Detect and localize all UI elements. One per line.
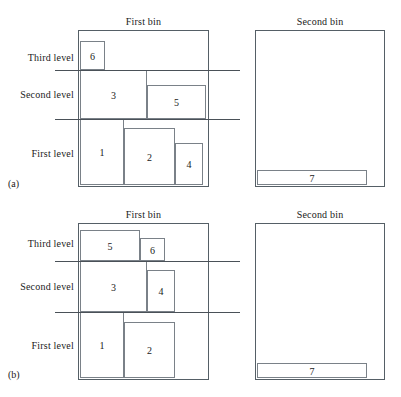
- item-label-a-first-bin-5: 5: [148, 97, 205, 108]
- bin-title-a-first-bin: First bin: [78, 16, 209, 27]
- item-label-a-first-bin-4: 4: [176, 159, 202, 170]
- item-label-a-first-bin-2: 2: [125, 151, 174, 162]
- item-label-b-second-bin-7: 7: [258, 365, 366, 376]
- item-label-b-first-bin-1: 1: [81, 340, 123, 351]
- level-label-b-2: First level: [4, 340, 74, 351]
- level-label-a-2: First level: [4, 148, 74, 159]
- item-label-a-second-bin-7: 7: [258, 172, 366, 183]
- level-divider-b-0: [55, 261, 240, 262]
- level-divider-b-1: [55, 312, 240, 313]
- level-label-b-0: Third level: [4, 238, 74, 249]
- bin-title-b-first-bin: First bin: [78, 209, 209, 220]
- item-box-b-first-bin-4: 4: [147, 270, 175, 312]
- item-box-b-first-bin-3: 3: [80, 261, 147, 312]
- bin-a-second-bin: [255, 30, 385, 187]
- level-label-a-0: Third level: [4, 52, 74, 63]
- item-box-a-second-bin-7: 7: [257, 170, 367, 185]
- figure-canvas: (a)Third levelSecond levelFirst levelFir…: [0, 0, 401, 397]
- item-box-b-first-bin-5: 5: [80, 230, 140, 261]
- item-box-b-first-bin-2: 2: [124, 322, 175, 378]
- item-label-b-first-bin-5: 5: [81, 240, 139, 251]
- item-box-a-first-bin-4: 4: [175, 143, 203, 185]
- item-label-b-first-bin-4: 4: [148, 286, 174, 297]
- item-label-b-first-bin-3: 3: [81, 281, 146, 292]
- level-divider-a-0: [55, 70, 240, 71]
- bin-title-a-second-bin: Second bin: [255, 16, 385, 27]
- level-label-a-1: Second level: [4, 89, 74, 100]
- level-label-b-1: Second level: [4, 281, 74, 292]
- item-box-a-first-bin-5: 5: [147, 85, 206, 119]
- item-label-a-first-bin-6: 6: [81, 50, 104, 61]
- panel-label-b: (b): [8, 369, 20, 380]
- item-box-a-first-bin-1: 1: [80, 119, 124, 185]
- item-label-a-first-bin-1: 1: [81, 147, 123, 158]
- panel-label-a: (a): [8, 178, 19, 189]
- item-box-b-second-bin-7: 7: [257, 363, 367, 378]
- item-label-a-first-bin-3: 3: [81, 89, 146, 100]
- item-box-b-first-bin-1: 1: [80, 312, 124, 378]
- item-box-a-first-bin-2: 2: [124, 128, 175, 185]
- bin-b-second-bin: [255, 223, 385, 380]
- bin-title-b-second-bin: Second bin: [255, 209, 385, 220]
- level-divider-a-1: [55, 119, 240, 120]
- item-label-b-first-bin-2: 2: [125, 345, 174, 356]
- item-box-a-first-bin-3: 3: [80, 70, 147, 119]
- item-box-b-first-bin-6: 6: [140, 238, 165, 261]
- item-box-a-first-bin-6: 6: [80, 41, 105, 70]
- item-label-b-first-bin-6: 6: [141, 244, 164, 255]
